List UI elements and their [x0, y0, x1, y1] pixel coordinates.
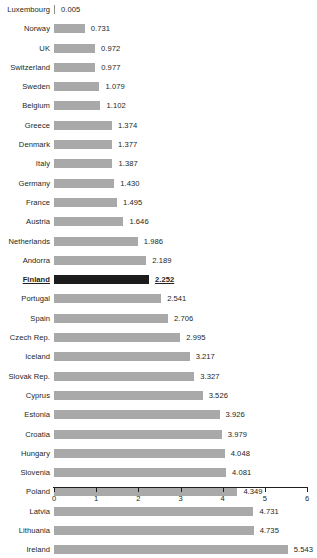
bar-row: Spain2.706 — [0, 309, 314, 328]
bar-category-label: Czech Rep. — [10, 328, 50, 347]
bar — [54, 391, 203, 400]
x-axis-tick — [223, 487, 224, 492]
bar-category-label: Italy — [36, 154, 50, 173]
bar-row: Lithuania4.735 — [0, 521, 314, 540]
bar — [54, 526, 254, 535]
bar — [54, 101, 100, 110]
bar-value-label: 3.526 — [209, 386, 228, 405]
bar-track: 0.005 — [54, 0, 314, 19]
x-axis-tick-label: 0 — [44, 494, 64, 504]
bar — [54, 24, 85, 33]
bar — [54, 314, 168, 323]
bar-value-label: 4.735 — [260, 521, 279, 540]
bar-category-label: Ireland — [26, 540, 50, 558]
bar — [54, 159, 112, 168]
bar-category-label: Slovenia — [20, 463, 50, 482]
bar-category-label: Belgium — [22, 96, 50, 115]
bar — [54, 294, 161, 303]
bar-row: Italy1.387 — [0, 154, 314, 173]
bar-value-label: 3.327 — [200, 367, 219, 386]
bar-value-label: 4.048 — [231, 444, 250, 463]
x-axis-tick-label: 6 — [297, 494, 317, 504]
bar-track: 3.217 — [54, 347, 314, 366]
bar-category-label: Switzerland — [10, 58, 50, 77]
bar — [54, 5, 55, 14]
x-axis-tick-label: 5 — [255, 494, 275, 504]
bar-category-label: Austria — [26, 212, 50, 231]
bar-track: 3.327 — [54, 367, 314, 386]
bar-track: 0.977 — [54, 58, 314, 77]
bar — [54, 44, 95, 53]
x-axis-tick-label: 3 — [171, 494, 191, 504]
bar-track: 2.995 — [54, 328, 314, 347]
bar-track: 4.735 — [54, 521, 314, 540]
x-axis-tick — [54, 487, 55, 492]
x-axis-tick-label: 4 — [213, 494, 233, 504]
bar — [54, 449, 225, 458]
bar-value-label: 0.731 — [91, 19, 110, 38]
bar-category-label: Finland — [23, 270, 50, 289]
x-axis-tick — [138, 487, 139, 492]
bar-track: 1.986 — [54, 232, 314, 251]
bar-row: Estonia3.926 — [0, 405, 314, 424]
bar — [54, 82, 99, 91]
bar — [54, 410, 220, 419]
bar-track: 1.079 — [54, 77, 314, 96]
bar-category-label: Andorra — [23, 251, 50, 270]
bar-value-label: 1.430 — [120, 174, 139, 193]
bar-row: Iceland3.217 — [0, 347, 314, 366]
x-axis-tick-label: 2 — [128, 494, 148, 504]
bar-row: Cyprus3.526 — [0, 386, 314, 405]
bar-track: 0.731 — [54, 19, 314, 38]
bar — [54, 140, 112, 149]
bar-value-label: 0.977 — [101, 58, 120, 77]
bar-category-label: Greece — [25, 116, 50, 135]
bar-row: Netherlands1.986 — [0, 232, 314, 251]
bar-track: 1.646 — [54, 212, 314, 231]
bar-row: Ireland5.543 — [0, 540, 314, 558]
bar-track: 2.189 — [54, 251, 314, 270]
bar-row: Luxembourg0.005 — [0, 0, 314, 19]
bar-value-label: 1.102 — [106, 96, 125, 115]
bar-row: Croatia3.979 — [0, 425, 314, 444]
bar-row: UK0.972 — [0, 39, 314, 58]
bar — [54, 198, 117, 207]
bar-row: Norway0.731 — [0, 19, 314, 38]
bar-row: Andorra2.189 — [0, 251, 314, 270]
bar-track: 3.526 — [54, 386, 314, 405]
bar-row: Austria1.646 — [0, 212, 314, 231]
bar-value-label: 0.005 — [61, 0, 80, 19]
bar-row: Belgium1.102 — [0, 96, 314, 115]
x-axis-tick — [307, 487, 308, 492]
bar-track: 2.706 — [54, 309, 314, 328]
bar-row: Switzerland0.977 — [0, 58, 314, 77]
x-axis-tick — [96, 487, 97, 492]
bar-row: Germany1.430 — [0, 174, 314, 193]
bar-value-label: 4.081 — [232, 463, 251, 482]
bar-track: 4.048 — [54, 444, 314, 463]
bar — [54, 217, 123, 226]
bar-category-label: Cyprus — [26, 386, 50, 405]
bar-category-label: Croatia — [25, 425, 50, 444]
bar-row: Czech Rep.2.995 — [0, 328, 314, 347]
bar-row: Slovenia4.081 — [0, 463, 314, 482]
bar-category-label: France — [26, 193, 50, 212]
bar-value-label: 5.543 — [294, 540, 313, 558]
bar-track: 1.377 — [54, 135, 314, 154]
bar-value-label: 1.495 — [123, 193, 142, 212]
bar-value-label: 1.377 — [118, 135, 137, 154]
bar-value-label: 2.252 — [155, 270, 174, 289]
bar-category-label: Luxembourg — [7, 0, 50, 19]
x-axis-tick — [181, 487, 182, 492]
bar-value-label: 1.079 — [105, 77, 124, 96]
bar — [54, 121, 112, 130]
bar-category-label: Lithuania — [19, 521, 50, 540]
bar — [54, 333, 180, 342]
bar-value-label: 3.217 — [196, 347, 215, 366]
bar-row: Greece1.374 — [0, 116, 314, 135]
bar-value-label: 2.541 — [167, 289, 186, 308]
bar-track: 4.081 — [54, 463, 314, 482]
bar-track: 3.979 — [54, 425, 314, 444]
bar-track: 2.541 — [54, 289, 314, 308]
bar-row: Hungary4.048 — [0, 444, 314, 463]
